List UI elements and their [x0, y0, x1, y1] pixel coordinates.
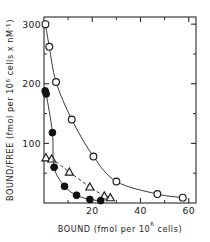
data-point-open-circles — [46, 43, 53, 50]
data-point-filled-circles — [51, 164, 58, 171]
data-point-open-circles — [113, 178, 120, 185]
y-axis-title: BOUND/FREE (fmol per 106 cells x nM-1) — [5, 19, 15, 201]
data-point-filled-circles — [86, 196, 93, 203]
series-line-open-circles — [45, 24, 182, 197]
data-point-open-circles — [90, 153, 97, 160]
data-point-filled-circles — [61, 183, 68, 190]
x-axis-title-group: BOUND (fmol per 106 cells) — [58, 221, 182, 234]
data-point-filled-circles — [49, 129, 56, 136]
data-point-open-circles — [68, 116, 75, 123]
data-point-open-triangles — [86, 183, 94, 190]
data-point-filled-circles — [43, 91, 50, 98]
data-series-layer — [42, 21, 186, 204]
data-point-open-triangles — [65, 168, 73, 175]
data-point-open-circles — [53, 79, 60, 86]
data-point-open-circles — [179, 194, 186, 201]
series-line-filled-circles — [45, 90, 100, 201]
data-point-filled-circles — [73, 192, 80, 199]
figure-container: 204060100200300 BOUND (fmol per 106 cell… — [0, 0, 210, 242]
y-tick-label: 100 — [22, 138, 41, 149]
series-open-circles — [42, 21, 186, 201]
x-tick-label: 60 — [183, 205, 195, 216]
data-point-open-circles — [42, 21, 49, 28]
x-tick-label: 40 — [134, 205, 146, 216]
y-axis-title-group: BOUND/FREE (fmol per 106 cells x nM-1) — [5, 19, 15, 201]
x-axis-title: BOUND (fmol per 106 cells) — [58, 221, 182, 234]
data-point-filled-circles — [97, 197, 104, 204]
scatchard-plot-svg: 204060100200300 BOUND (fmol per 106 cell… — [0, 0, 210, 242]
y-tick-label: 200 — [22, 78, 41, 89]
x-tick-label: 20 — [86, 205, 98, 216]
y-tick-label: 300 — [22, 19, 41, 30]
data-point-open-circles — [154, 191, 161, 198]
series-filled-circles — [42, 88, 104, 205]
series-line-open-triangles — [46, 157, 110, 197]
